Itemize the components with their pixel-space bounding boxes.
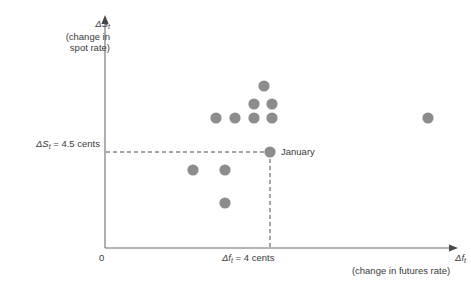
x-axis-subscript: t: [464, 257, 466, 264]
data-point: [258, 80, 269, 91]
y-tick-value: = 4.5 cents: [51, 138, 100, 149]
data-point: [266, 112, 277, 123]
data-point: [210, 112, 221, 123]
y-axis-title-line2: (change in: [66, 31, 110, 42]
data-point: [422, 112, 433, 123]
data-point: [229, 112, 240, 123]
y-axis-subscript: t: [108, 23, 110, 30]
scatter-chart: ΔSt (change in spot rate) ΔSt = 4.5 cent…: [0, 0, 471, 293]
january-annotation-label: January: [281, 146, 315, 158]
data-point-january: [264, 146, 275, 157]
data-point: [187, 164, 198, 175]
data-point: [266, 98, 277, 109]
y-axis-tick-label: ΔSt = 4.5 cents: [2, 138, 100, 151]
x-tick-symbol: Δf: [222, 252, 231, 263]
x-axis-title: Δft (change in futures rate): [334, 252, 468, 276]
y-axis-symbol: ΔS: [95, 18, 108, 29]
x-tick-subscript: t: [231, 257, 233, 264]
origin-label: 0: [99, 252, 104, 264]
y-axis-title-line3: spot rate): [70, 42, 110, 53]
x-tick-value: = 4 cents: [233, 252, 274, 263]
x-axis-arrow-icon: [449, 244, 458, 251]
x-axis-title-line2: (change in futures rate): [352, 265, 450, 276]
y-tick-symbol: ΔS: [36, 138, 49, 149]
data-point: [248, 98, 259, 109]
data-point: [219, 197, 230, 208]
data-point: [248, 112, 259, 123]
y-tick-subscript: t: [49, 143, 51, 150]
x-axis-symbol: Δf: [455, 252, 464, 263]
data-point: [219, 164, 230, 175]
y-axis-title: ΔSt (change in spot rate): [18, 18, 110, 54]
x-axis-tick-label: Δft = 4 cents: [222, 252, 274, 265]
